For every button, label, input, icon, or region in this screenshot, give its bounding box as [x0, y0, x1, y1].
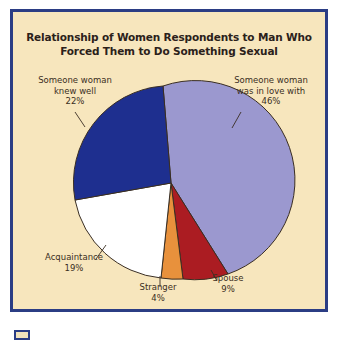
pie-label-acquaintance: Acquaintance 19% — [28, 252, 120, 273]
pie-label-value: 19% — [28, 263, 120, 274]
leader-line-knew-well — [75, 112, 85, 127]
pie-label-value: 9% — [197, 284, 259, 295]
pie-label-someone-woman-knew-well: Someone woman knew well 22% — [23, 75, 127, 107]
figure-frame: Relationship of Women Respondents to Man… — [10, 9, 328, 312]
pie-label-line-1: Someone woman — [219, 75, 323, 86]
pie-label-line-2: was in love with — [219, 86, 323, 97]
pie-label-spouse: Spouse 9% — [197, 273, 259, 294]
pie-label-line-1: Stranger — [125, 282, 191, 293]
pie-label-line-1: Someone woman — [23, 75, 127, 86]
pie-label-value: 4% — [125, 293, 191, 304]
pie-label-line-1: Acquaintance — [28, 252, 120, 263]
pie-label-value: 46% — [219, 96, 323, 107]
pie-chart: Someone woman was in love with 46% Someo… — [13, 12, 331, 315]
pie-label-line-2: knew well — [23, 86, 127, 97]
pie-label-stranger: Stranger 4% — [125, 282, 191, 303]
pie-label-someone-woman-was-in-love-with: Someone woman was in love with 46% — [219, 75, 323, 107]
page-edge-marker — [14, 330, 30, 340]
pie-label-value: 22% — [23, 96, 127, 107]
pie-label-line-1: Spouse — [197, 273, 259, 284]
